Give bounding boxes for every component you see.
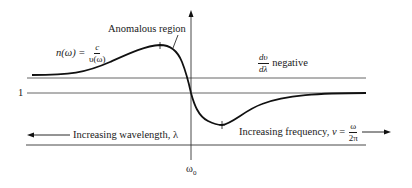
anomalous-leader-line: [173, 35, 178, 48]
frequency-prefix: Increasing frequency,: [239, 126, 332, 137]
derivative-fraction: dυdλ: [258, 53, 269, 74]
anomalous-region-label: Anomalous region: [108, 24, 186, 35]
wavelength-arrow-icon: [27, 133, 34, 138]
omega-zero-label: ω0: [186, 164, 196, 177]
derivative-denominator: dλ: [259, 64, 267, 74]
wavelength-label: Increasing wavelength, λ: [73, 130, 178, 141]
dispersion-diagram: [0, 0, 412, 188]
omega-symbol: ω: [186, 163, 193, 174]
formula-lhs: n(ω) =: [56, 47, 88, 58]
derivative-text: negative: [272, 57, 308, 68]
vertical-axis-arrow-icon: [189, 10, 194, 17]
formula-fraction: cυ(ω): [89, 43, 105, 64]
derivative-numerator: dυ: [258, 53, 269, 64]
frequency-equals: =: [337, 126, 348, 137]
frequency-fraction: ω2π: [349, 122, 358, 143]
frequency-numerator: ω: [349, 122, 357, 133]
frequency-arrow-icon: [384, 130, 391, 135]
frequency-denominator: 2π: [349, 133, 358, 143]
unity-label: 1: [18, 88, 23, 99]
derivative-negative-label: dυdλ negative: [257, 53, 308, 74]
frequency-label: Increasing frequency, ν = ω2π: [239, 122, 359, 143]
formula-denominator: υ(ω): [89, 54, 105, 64]
refractive-index-formula: n(ω) = cυ(ω): [56, 43, 106, 64]
omega-subscript: 0: [193, 169, 197, 177]
formula-numerator: c: [94, 43, 100, 54]
